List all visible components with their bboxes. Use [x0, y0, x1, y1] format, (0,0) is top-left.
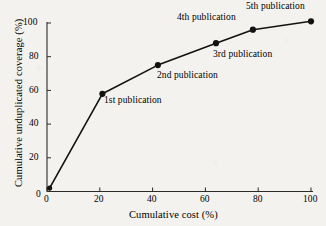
chart-plot-area — [0, 0, 326, 226]
x-tick-label-100: 100 — [303, 195, 318, 205]
y-tick-label-40: 40 — [29, 119, 39, 129]
annotation-4th-publication: 4th publication — [177, 13, 236, 23]
data-points — [47, 18, 314, 191]
y-tick-label-0: 0 — [36, 190, 41, 200]
axis-lines — [47, 22, 313, 192]
annotation-5th-publication: 5th publication — [246, 2, 305, 12]
y-tick-label-20: 20 — [29, 153, 39, 163]
y-tick-label-100: 100 — [23, 18, 38, 28]
annotation-2nd-publication: 2nd publication — [157, 71, 218, 81]
data-line — [50, 21, 311, 188]
x-tick-label-80: 80 — [253, 195, 263, 205]
y-axis-title: Cumulative unduplicated coverage (%) — [14, 19, 25, 187]
annotation-1st-publication: 1st publication — [104, 96, 162, 106]
y-tick-label-80: 80 — [29, 52, 39, 62]
x-tick-label-60: 60 — [200, 195, 210, 205]
x-tick-label-20: 20 — [94, 195, 104, 205]
y-axis-ticks — [47, 23, 51, 192]
y-tick-label-60: 60 — [29, 86, 39, 96]
annotation-3rd-publication: 3rd publication — [213, 50, 272, 60]
x-tick-label-0: 0 — [44, 195, 49, 205]
x-axis-title: Cumulative cost (%) — [129, 210, 218, 221]
x-axis-ticks — [47, 188, 311, 192]
chart-figure: 100 80 60 40 20 0 0 20 40 60 80 100 Cumu… — [0, 0, 326, 226]
x-tick-label-40: 40 — [147, 195, 157, 205]
